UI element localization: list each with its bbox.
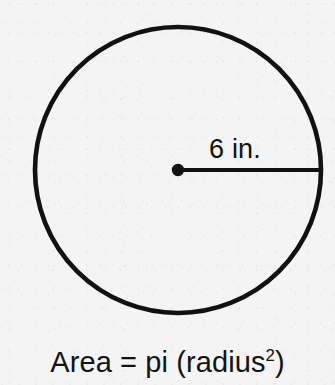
area-formula-suffix: ) xyxy=(275,346,285,378)
area-formula-prefix: Area = pi (radius xyxy=(50,346,265,378)
circle-diagram: 6 in. xyxy=(0,0,335,335)
area-formula-caption: Area = pi (radius2) xyxy=(0,348,335,377)
circle-diagram-svg xyxy=(0,0,335,335)
area-formula-exponent: 2 xyxy=(266,346,275,365)
center-point-dot xyxy=(172,164,184,176)
radius-measurement-label: 6 in. xyxy=(209,136,261,163)
